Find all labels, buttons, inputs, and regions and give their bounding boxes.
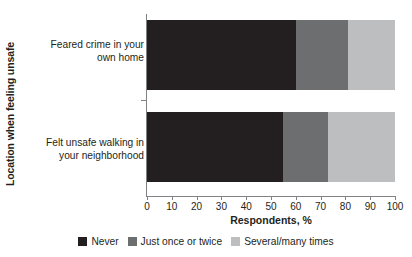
- x-axis-tick: [296, 196, 297, 200]
- x-axis-tick: [197, 196, 198, 200]
- x-axis-tick: [370, 196, 371, 200]
- y-axis-category-label-0-line-0: Feared crime in your: [26, 39, 144, 52]
- x-axis-tick-label: 40: [234, 201, 258, 212]
- x-axis-tick: [246, 196, 247, 200]
- x-axis-tick-label: 70: [309, 201, 333, 212]
- bar-segment-several-many-times: [348, 20, 395, 90]
- legend: NeverJust once or twiceSeveral/many time…: [0, 236, 412, 247]
- x-axis-tick-label: 90: [358, 201, 382, 212]
- x-axis-tick-label: 30: [209, 201, 233, 212]
- legend-item[interactable]: Several/many times: [231, 236, 333, 247]
- bar-segment-just-once-or-twice: [283, 112, 328, 182]
- bar-segment-several-many-times: [328, 112, 395, 182]
- legend-label: Just once or twice: [141, 236, 223, 247]
- y-axis-category-label-1-line-1: your neighborhood: [26, 150, 144, 163]
- y-axis-title: Location when feeling unsafe: [3, 14, 17, 214]
- legend-swatch-icon: [78, 237, 87, 246]
- x-axis-tick: [221, 196, 222, 200]
- bar-segment-never: [147, 112, 283, 182]
- x-axis-tick-label: 10: [160, 201, 184, 212]
- x-axis-title: Respondents, %: [147, 214, 395, 226]
- plot-area: [147, 14, 395, 196]
- x-axis-tick: [147, 196, 148, 200]
- y-axis-category-label-1: Felt unsafe walking in your neighborhood: [26, 137, 144, 162]
- bar-row: [147, 20, 395, 90]
- x-axis-tick-label: 50: [259, 201, 283, 212]
- legend-swatch-icon: [231, 237, 240, 246]
- x-axis-tick-label: 20: [185, 201, 209, 212]
- y-axis-category-label-0-line-1: own home: [26, 52, 144, 65]
- bar-segment-never: [147, 20, 296, 90]
- legend-item[interactable]: Just once or twice: [128, 236, 223, 247]
- x-axis-tick: [321, 196, 322, 200]
- y-axis-category-label-1-line-0: Felt unsafe walking in: [26, 137, 144, 150]
- stacked-bar-chart: Location when feeling unsafe Feared crim…: [0, 0, 412, 257]
- legend-item[interactable]: Never: [78, 236, 118, 247]
- x-axis-tick-label: 100: [383, 201, 407, 212]
- legend-label: Several/many times: [244, 236, 333, 247]
- y-axis-category-label-0: Feared crime in your own home: [26, 39, 144, 64]
- x-axis-tick: [345, 196, 346, 200]
- x-axis-tick-label: 80: [333, 201, 357, 212]
- bar-row: [147, 112, 395, 182]
- x-axis-tick-label: 60: [284, 201, 308, 212]
- x-axis-tick-label: 0: [135, 201, 159, 212]
- legend-label: Never: [91, 236, 118, 247]
- x-axis-tick: [271, 196, 272, 200]
- x-axis-tick: [172, 196, 173, 200]
- x-axis-tick: [395, 196, 396, 200]
- bar-segment-just-once-or-twice: [296, 20, 348, 90]
- legend-swatch-icon: [128, 237, 137, 246]
